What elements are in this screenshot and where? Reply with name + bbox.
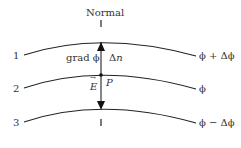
surface-2-index: 2 (13, 84, 19, 94)
point-p-label: P (106, 78, 113, 88)
surface-2-potential: ϕ (199, 84, 206, 94)
surface-3-potential: ϕ − Δϕ (199, 118, 235, 128)
grad-phi-label: grad ϕ (66, 53, 100, 63)
surface-1-potential: ϕ + Δϕ (199, 51, 235, 61)
field-arrow-down-icon (97, 101, 105, 110)
surface-3-index: 3 (13, 118, 19, 128)
field-e-label: E→ (90, 82, 97, 92)
surface-3-curve (24, 109, 196, 123)
surface-1-index: 1 (13, 51, 19, 61)
delta-n-label: Δn (109, 53, 123, 63)
point-p-dot (99, 73, 103, 77)
normal-label: Normal (86, 8, 124, 18)
